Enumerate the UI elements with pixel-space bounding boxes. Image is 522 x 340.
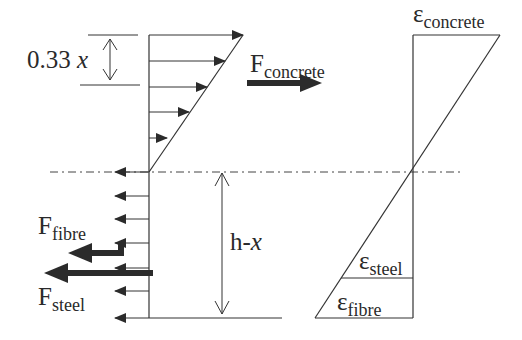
compression-zone-label: 0.33 x (27, 46, 88, 74)
strain-fibre-label: εfibre (337, 288, 381, 316)
tension-depth-label: h-x (230, 228, 262, 256)
force-fibre-label: Ffibre (38, 212, 86, 240)
force-concrete-label: Fconcrete (250, 50, 325, 78)
compression-zone-dimension (80, 35, 140, 85)
strain-steel-label: εsteel (359, 247, 403, 275)
force-steel-arrow (44, 263, 153, 283)
strain-concrete-label: εconcrete (413, 0, 484, 28)
compression-stress-arrows (149, 35, 243, 138)
force-steel-label: Fsteel (38, 283, 85, 311)
tension-depth-dimension (215, 173, 229, 314)
force-fibre-arrow (68, 243, 124, 263)
strain-diagram (315, 35, 500, 318)
